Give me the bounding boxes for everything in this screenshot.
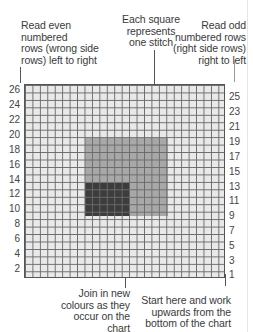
row-label: 2 bbox=[4, 264, 20, 274]
note-line: Read odd bbox=[150, 20, 246, 32]
note-line: bottom of the chart bbox=[135, 318, 231, 330]
note-join-colours: Join in new colours as they occur on the… bbox=[50, 288, 130, 332]
row-label: 11 bbox=[229, 196, 245, 206]
note-line: Join in new bbox=[50, 288, 130, 300]
stitch-chart-grid bbox=[24, 84, 225, 278]
note-start-here: Start here and work upwards from the bot… bbox=[135, 295, 231, 330]
row-label: 19 bbox=[229, 137, 245, 147]
row-label: 4 bbox=[4, 249, 20, 259]
row-label: 26 bbox=[4, 85, 20, 95]
row-label: 8 bbox=[4, 219, 20, 229]
note-line: occur on the bbox=[50, 311, 130, 323]
page-divider bbox=[247, 0, 248, 332]
row-label: 24 bbox=[4, 100, 20, 110]
note-line: Read even bbox=[21, 20, 121, 32]
row-label: 18 bbox=[4, 145, 20, 155]
row-label: 22 bbox=[4, 115, 20, 125]
leader-start-here bbox=[225, 274, 226, 286]
row-label: 15 bbox=[229, 167, 245, 177]
note-line: rows (wrong side bbox=[21, 43, 121, 55]
note-line: (right side rows) bbox=[150, 43, 246, 55]
grid-lines bbox=[25, 85, 224, 277]
note-even-rows: Read even numbered rows (wrong side rows… bbox=[21, 20, 121, 66]
note-line: right to left bbox=[150, 55, 246, 67]
row-label: 5 bbox=[229, 241, 245, 251]
row-label: 7 bbox=[229, 226, 245, 236]
row-label: 6 bbox=[4, 234, 20, 244]
row-label: 16 bbox=[4, 160, 20, 170]
note-line: rows) left to right bbox=[21, 55, 121, 67]
leader-odd-rows bbox=[234, 60, 235, 82]
row-label: 1 bbox=[229, 270, 245, 280]
note-line: Start here and work bbox=[135, 295, 231, 307]
note-line: chart bbox=[50, 323, 130, 332]
row-label: 3 bbox=[229, 256, 245, 266]
row-label: 12 bbox=[4, 189, 20, 199]
row-label: 23 bbox=[229, 107, 245, 117]
leader-even-rows bbox=[20, 67, 21, 83]
note-odd-rows: Read odd numbered rows (right side rows)… bbox=[150, 20, 246, 66]
row-label: 17 bbox=[229, 152, 245, 162]
row-label: 10 bbox=[4, 204, 20, 214]
row-label: 13 bbox=[229, 182, 245, 192]
row-label: 14 bbox=[4, 175, 20, 185]
row-label: 20 bbox=[4, 130, 20, 140]
row-label: 9 bbox=[229, 211, 245, 221]
row-label: 21 bbox=[229, 122, 245, 132]
row-label: 25 bbox=[229, 92, 245, 102]
